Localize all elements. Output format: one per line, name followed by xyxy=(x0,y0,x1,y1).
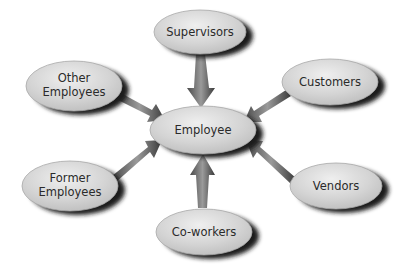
label-former: Former xyxy=(50,171,91,185)
arrow-from-customers xyxy=(244,90,291,122)
label-supervisors: Supervisors xyxy=(166,25,233,39)
node-vendors: Vendors xyxy=(290,163,382,209)
label-other: Other xyxy=(58,71,91,85)
label-co-workers: Co-workers xyxy=(172,225,237,239)
node-supervisors: Supervisors xyxy=(154,10,246,54)
arrow-from-co-workers xyxy=(190,154,215,208)
label-vendors: Vendors xyxy=(313,179,359,193)
label-employees-2: Employees xyxy=(39,185,102,199)
node-former-employees: Former Employees xyxy=(22,161,118,211)
employee-relationship-diagram: Supervisors Other Employees Customers Em… xyxy=(0,0,406,265)
label-employee: Employee xyxy=(175,123,232,137)
label-customers: Customers xyxy=(299,75,361,89)
node-customers: Customers xyxy=(282,59,378,105)
node-employee-center: Employee xyxy=(150,106,256,154)
arrow-from-supervisors xyxy=(187,54,215,108)
node-co-workers: Co-workers xyxy=(156,209,252,255)
label-employees: Employees xyxy=(43,85,106,99)
arrow-from-former-employees xyxy=(112,140,162,182)
node-other-employees: Other Employees xyxy=(26,61,122,111)
